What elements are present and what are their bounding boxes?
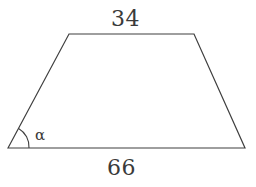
top-side-length-label: 34 [111, 8, 140, 30]
angle-arc [19, 128, 29, 148]
angle-alpha-label: α [35, 128, 45, 143]
bottom-side-length-label: 66 [107, 157, 136, 179]
diagram-canvas: 34 66 α [0, 0, 256, 187]
